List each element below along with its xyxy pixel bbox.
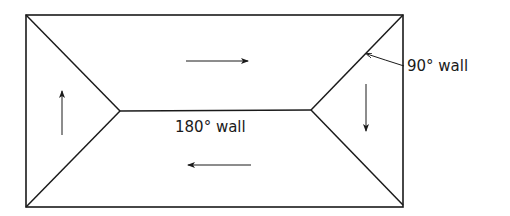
wall-top-left — [26, 15, 120, 111]
wall-bottom-right — [311, 110, 403, 205]
domain-diagram: 180° wall 90° wall — [0, 0, 510, 216]
wall-bottom-left — [26, 111, 120, 207]
label-180-wall: 180° wall — [175, 118, 246, 136]
wall-top-right — [311, 15, 403, 110]
leader-line — [367, 54, 404, 66]
wall-center-180 — [120, 110, 311, 111]
label-90-wall: 90° wall — [407, 57, 468, 75]
